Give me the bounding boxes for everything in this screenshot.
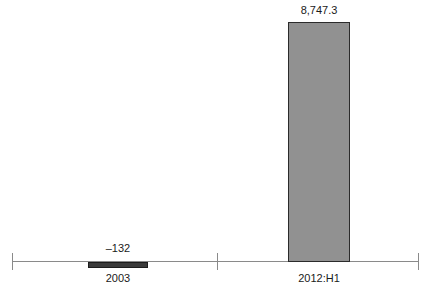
bar-value-label-2003: –132 xyxy=(78,242,158,255)
bar-chart: –132 8,747.3 2003 2012:H1 xyxy=(0,0,427,294)
x-axis-line xyxy=(12,261,418,262)
bar-2012h1 xyxy=(288,22,350,262)
bar-2003 xyxy=(88,262,148,268)
x-axis-tick-middle xyxy=(217,253,218,270)
x-axis-tick-start xyxy=(12,253,13,270)
category-label-2003: 2003 xyxy=(78,271,158,285)
category-label-2012h1: 2012:H1 xyxy=(279,271,359,285)
bar-value-label-2012h1: 8,747.3 xyxy=(279,4,359,17)
x-axis-tick-end xyxy=(418,253,419,270)
